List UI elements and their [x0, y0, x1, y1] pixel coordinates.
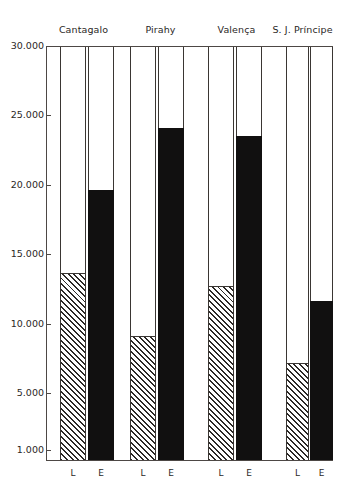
group-title-sj-principe: S. J. Príncipe	[263, 24, 342, 35]
x-axis-label-cantagalo-L: L	[60, 468, 86, 478]
x-axis-label-valenca-E: E	[236, 468, 262, 478]
bar-cantagalo-L[interactable]	[60, 273, 86, 461]
y-axis-tick-label: 10.000	[11, 319, 44, 329]
x-axis-label-pirahy-E: E	[158, 468, 184, 478]
x-axis-label-valenca-L: L	[208, 468, 234, 478]
y-axis-spine	[46, 46, 47, 461]
y-axis-tick-label: 15.000	[11, 249, 44, 259]
bar-chart: 30.000 25.000 20.000 15.000 10.000 5.000…	[0, 0, 342, 503]
x-axis-label-sj-principe-L: L	[286, 468, 309, 478]
y-axis-tick-label: 1.000	[17, 445, 44, 455]
bar-pirahy-L[interactable]	[130, 336, 156, 461]
bar-valenca-L[interactable]	[208, 286, 234, 461]
bar-pirahy-E[interactable]	[158, 128, 184, 461]
bar-sj-principe-L[interactable]	[286, 363, 309, 461]
x-axis-label-cantagalo-E: E	[88, 468, 114, 478]
bar-cantagalo-E[interactable]	[88, 190, 114, 461]
x-axis-baseline	[46, 460, 333, 461]
group-title-cantagalo: Cantagalo	[47, 24, 120, 35]
plot-top-border	[46, 46, 333, 47]
group-title-pirahy: Pirahy	[124, 24, 197, 35]
bar-sj-principe-E[interactable]	[310, 301, 333, 461]
x-axis-label-pirahy-L: L	[130, 468, 156, 478]
y-axis-tick-label: 5.000	[17, 388, 44, 398]
bar-valenca-E[interactable]	[236, 136, 262, 461]
y-axis-tick-label: 30.000	[11, 41, 44, 51]
y-axis-tick-label: 20.000	[11, 180, 44, 190]
y-axis-tick-label: 25.000	[11, 110, 44, 120]
x-axis-label-sj-principe-E: E	[310, 468, 333, 478]
